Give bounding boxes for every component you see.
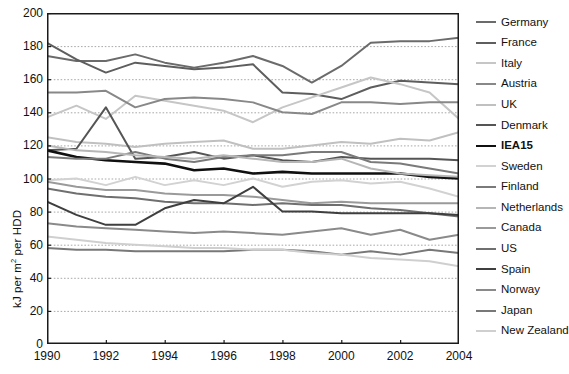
legend-item-italy[interactable]: Italy (476, 53, 569, 74)
legend-item-germany[interactable]: Germany (476, 12, 569, 33)
legend-swatch-icon (476, 330, 496, 332)
legend-label: Canada (501, 222, 541, 234)
plot-area (47, 13, 459, 344)
y-axis-tick-label: 40 (9, 272, 43, 284)
legend-label: UK (501, 99, 517, 111)
legend-item-norway[interactable]: Norway (476, 280, 569, 301)
legend-swatch-icon (476, 310, 496, 312)
legend-item-netherlands[interactable]: Netherlands (476, 197, 569, 218)
legend-item-finland[interactable]: Finland (476, 177, 569, 198)
y-axis-tick-label: 120 (9, 139, 43, 151)
x-axis-tick-label: 2000 (328, 350, 355, 362)
legend-swatch-icon (476, 268, 496, 270)
legend-swatch-icon (476, 42, 496, 44)
legend-label: Germany (501, 17, 548, 29)
legend-label: US (501, 243, 517, 255)
legend-label: Austria (501, 78, 537, 90)
y-axis-tick-label: 60 (9, 239, 43, 251)
legend-swatch-icon (476, 227, 496, 229)
legend-item-france[interactable]: France (476, 33, 569, 54)
legend-label: Finland (501, 181, 539, 193)
chart-legend: GermanyFranceItalyAustriaUKDenmarkIEA15S… (476, 12, 569, 342)
legend-swatch-icon (476, 165, 496, 167)
legend-label: Spain (501, 264, 530, 276)
legend-label: Denmark (501, 120, 548, 132)
y-axis-tick-labels: 020406080100120140160180200 (5, 13, 43, 344)
legend-label: Netherlands (501, 202, 563, 214)
y-axis-tick-label: 100 (9, 173, 43, 185)
legend-item-us[interactable]: US (476, 239, 569, 260)
legend-label: IEA15 (501, 140, 533, 152)
legend-swatch-icon (476, 62, 496, 64)
legend-label: Norway (501, 284, 540, 296)
legend-swatch-icon (476, 104, 496, 106)
legend-label: Sweden (501, 161, 543, 173)
y-axis-tick-label: 140 (9, 106, 43, 118)
x-axis-tick-label: 2002 (387, 350, 414, 362)
legend-item-denmark[interactable]: Denmark (476, 115, 569, 136)
chart-svg (47, 13, 459, 344)
legend-swatch-icon (476, 248, 496, 250)
y-axis-tick-label: 180 (9, 40, 43, 52)
legend-item-spain[interactable]: Spain (476, 259, 569, 280)
legend-swatch-icon (476, 186, 496, 188)
legend-item-uk[interactable]: UK (476, 94, 569, 115)
legend-item-austria[interactable]: Austria (476, 74, 569, 95)
series-line-italy (47, 78, 459, 123)
series-line-germany (47, 38, 459, 83)
series-line-new-zealand (47, 236, 459, 266)
legend-item-canada[interactable]: Canada (476, 218, 569, 239)
legend-swatch-icon (476, 207, 496, 209)
data-series-layer (47, 38, 459, 266)
legend-swatch-icon (476, 124, 496, 126)
legend-swatch-icon (476, 289, 496, 291)
legend-label: France (501, 37, 537, 49)
legend-label: Italy (501, 58, 522, 70)
legend-label: Japan (501, 305, 532, 317)
legend-item-iea15[interactable]: IEA15 (476, 136, 569, 157)
legend-swatch-icon (476, 145, 496, 148)
x-axis-tick-label: 1994 (151, 350, 178, 362)
x-axis-tick-label: 1996 (210, 350, 237, 362)
y-axis-tick-label: 160 (9, 73, 43, 85)
x-axis-tick-labels: 19901992199419961998200020022004 (47, 348, 459, 366)
y-axis-tick-label: 80 (9, 206, 43, 218)
y-axis-tick-label: 200 (9, 7, 43, 19)
series-line-france (47, 43, 459, 99)
x-axis-tick-label: 1998 (269, 350, 296, 362)
x-axis-tick-label: 1992 (92, 350, 119, 362)
legend-item-new-zealand[interactable]: New Zealand (476, 321, 569, 342)
x-axis-tick-label: 1990 (34, 350, 61, 362)
chart-root: kJ per m2 per HDD 0204060801001201401601… (0, 0, 569, 374)
legend-label: New Zealand (501, 325, 569, 337)
x-axis-tick-label: 2004 (446, 350, 473, 362)
legend-swatch-icon (476, 83, 496, 85)
series-line-finland (47, 152, 459, 174)
legend-item-japan[interactable]: Japan (476, 300, 569, 321)
legend-item-sweden[interactable]: Sweden (476, 156, 569, 177)
y-axis-tick-label: 20 (9, 305, 43, 317)
legend-swatch-icon (476, 21, 496, 23)
